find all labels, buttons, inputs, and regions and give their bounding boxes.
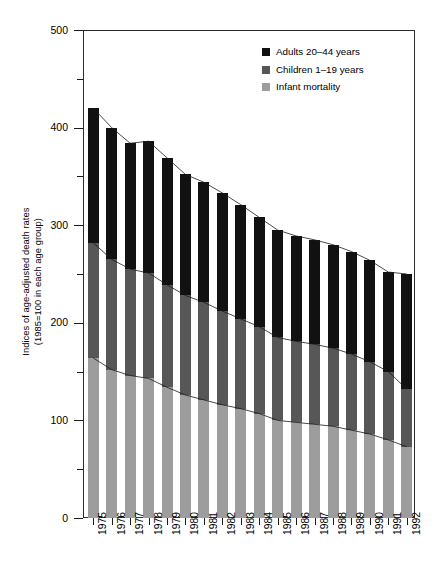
bar-segment — [309, 240, 320, 344]
legend-item-label: Infant mortality — [276, 82, 340, 92]
bar — [254, 217, 265, 518]
bar-segment — [328, 245, 339, 348]
x-axis-tick-label: 1985 — [283, 512, 293, 572]
y-axis-tick-label: 200 — [26, 317, 68, 328]
bar-segment — [401, 447, 412, 518]
x-axis-tick-mark — [93, 518, 94, 525]
bar-segment — [106, 259, 117, 369]
y-axis-tick-mark — [74, 518, 83, 519]
bar — [106, 128, 117, 518]
bar — [328, 245, 339, 518]
x-axis-tick-label: 1979 — [172, 512, 182, 572]
x-axis-tick-mark — [370, 518, 371, 525]
bar-segment — [125, 376, 136, 518]
x-axis-tick-mark — [222, 518, 223, 525]
x-axis-tick-label: 1975 — [98, 512, 108, 572]
legend-item: Adults 20–44 years — [262, 47, 364, 57]
bar — [143, 141, 154, 518]
x-axis-tick-label: 1990 — [375, 512, 385, 572]
x-axis-tick-label: 1977 — [135, 512, 145, 572]
bar-segment — [217, 311, 228, 405]
bar-segment — [125, 143, 136, 269]
bar — [401, 274, 412, 518]
bar-segment — [291, 422, 302, 518]
bar-segment — [143, 273, 154, 378]
bar — [309, 240, 320, 518]
x-axis-tick-mark — [278, 518, 279, 525]
bar-segment — [364, 434, 375, 518]
bar-segment — [401, 274, 412, 389]
x-axis-tick-label: 1991 — [393, 512, 403, 572]
bar — [180, 174, 191, 518]
bar-segment — [346, 430, 357, 518]
bar-segment — [180, 295, 191, 395]
x-axis-tick-mark — [167, 518, 168, 525]
bar — [291, 236, 302, 518]
legend-item: Children 1–19 years — [262, 65, 364, 75]
x-axis-tick-label: 1976 — [117, 512, 127, 572]
bar-segment — [88, 243, 99, 358]
bar-segment — [383, 372, 394, 440]
x-axis-tick-label: 1981 — [209, 512, 219, 572]
bar-segment — [88, 108, 99, 243]
x-axis-tick-mark — [259, 518, 260, 525]
bars-layer — [83, 30, 415, 518]
x-axis-tick-label: 1988 — [338, 512, 348, 572]
x-axis-tick-label: 1989 — [356, 512, 366, 572]
legend-item-label: Children 1–19 years — [276, 65, 364, 75]
x-axis-tick-mark — [388, 518, 389, 525]
bar-segment — [272, 420, 283, 518]
bar-segment — [364, 362, 375, 434]
bar-segment — [125, 269, 136, 375]
bar-segment — [383, 272, 394, 372]
bar-segment — [309, 344, 320, 424]
x-axis-tick-label: 1987 — [320, 512, 330, 572]
bar-segment — [217, 405, 228, 518]
bar-segment — [143, 378, 154, 518]
bar — [272, 230, 283, 518]
bar — [198, 182, 209, 518]
bar-segment — [291, 341, 302, 422]
x-axis-tick-mark — [296, 518, 297, 525]
x-axis-tick-mark — [185, 518, 186, 525]
y-axis-tick-label: 400 — [26, 122, 68, 133]
bar-segment — [180, 395, 191, 518]
bar-segment — [217, 193, 228, 311]
bar-segment — [198, 182, 209, 302]
legend-item: Infant mortality — [262, 82, 364, 92]
y-axis-tick-label: 500 — [26, 25, 68, 36]
bar-segment — [162, 158, 173, 285]
bar-segment — [254, 414, 265, 518]
x-axis-tick-mark — [333, 518, 334, 525]
bar-segment — [162, 387, 173, 518]
x-axis-tick-label: 1978 — [154, 512, 164, 572]
x-axis-tick-mark — [130, 518, 131, 525]
y-axis-tick-label: 0 — [26, 513, 68, 524]
legend-swatch-icon — [262, 48, 270, 56]
bar-segment — [346, 354, 357, 430]
stacked-bar-chart: Indices of age-adjusted death rates (198… — [0, 0, 438, 581]
bar-segment — [328, 426, 339, 518]
bar-segment — [235, 205, 246, 319]
bar-segment — [143, 141, 154, 273]
y-axis-tick-mark — [74, 420, 83, 421]
bar-segment — [198, 302, 209, 400]
y-axis-title: Indices of age-adjusted death rates (198… — [20, 132, 43, 432]
bar — [364, 260, 375, 518]
bar-segment — [106, 128, 117, 260]
x-axis-tick-label: 1986 — [301, 512, 311, 572]
bar-segment — [346, 252, 357, 354]
bar — [162, 158, 173, 518]
legend-swatch-icon — [262, 83, 270, 91]
x-axis-tick-label: 1992 — [412, 512, 422, 572]
y-axis-tick-label: 300 — [26, 220, 68, 231]
x-axis-tick-label: 1983 — [246, 512, 256, 572]
bar-segment — [272, 337, 283, 420]
y-axis-tick-mark — [74, 30, 83, 31]
bar-segment — [401, 389, 412, 447]
x-axis-tick-mark — [112, 518, 113, 525]
bar — [383, 272, 394, 518]
legend-swatch-icon — [262, 66, 270, 74]
x-axis-tick-mark — [407, 518, 408, 525]
x-axis-tick-mark — [241, 518, 242, 525]
